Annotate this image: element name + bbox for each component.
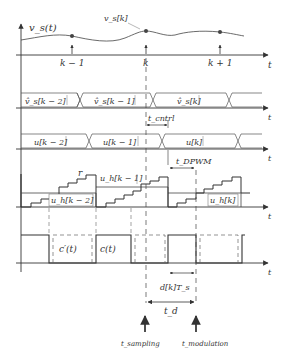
sample-dot-k [144,29,148,33]
uh-k: u_h[k] [210,196,236,205]
row-vs-hat: v̂_s[k − 2] v̂_s[k − 1] v̂_s[k] t t_cntr… [16,93,272,128]
u-k-minus-1: u[k − 1] [103,138,137,147]
c-label: c(t) [100,244,116,254]
vs-hat-k-minus-1: v̂_s[k − 1] [94,97,135,106]
t-modulation-label: t_modulation [182,340,229,348]
tick-k-minus-1: k − 1 [60,58,84,68]
uh-k-minus-2: u_h[k − 2] [51,196,94,205]
row-c: c′(t) c(t) t d[k]T_s t_d [16,235,272,317]
c-solid-wave [21,235,245,263]
t-label-3: t [268,154,272,163]
u-k-minus-2: u[k − 2] [34,138,68,147]
t-dpwm-label: t_DPWM [176,157,212,166]
duty-label: d[k]T_s [160,283,190,292]
t-label-5: t [268,268,272,277]
td-label: t_d [164,306,178,317]
ramp-label: r [78,168,83,178]
t-cntrl-label: t_cntrl [148,114,175,123]
tick-k-plus-1: k + 1 [208,58,232,68]
row-u: u[k − 2] u[k − 1] u[k] t t_DPWM [16,134,272,168]
t-label-2: t [268,113,272,122]
t-sampling-label: t_sampling [121,340,160,348]
vs-t-label: v_s(t) [29,22,57,34]
c-prime-label: c′(t) [59,244,77,254]
sampling-marker: t_sampling [121,316,160,348]
vs-hat-k-minus-2: v̂_s[k − 2] [25,97,66,106]
vs-hat-k: v̂_s[k] [177,97,202,106]
uh-k-minus-1: u_h[k − 1] [100,174,143,183]
sample-dot-k-minus-1 [70,34,74,38]
t-label-4: t [268,212,272,221]
u-k: u[k] [186,138,203,147]
uh-k-minus-2-box: u_h[k − 2] [49,194,94,206]
vs-k-label: v_s[k] [104,14,129,23]
row-uh: r u_h[k − 2] u_h[k − 1] u_h[k] t [16,168,272,221]
sample-dot-k-plus-1 [218,30,222,34]
c-dashed-wave [53,235,238,263]
timing-diagram: v_s(t) v_s[k] k − 1 k k + 1 t v̂_s[k − 2… [0,0,286,356]
t-label-1: t [268,60,272,70]
modulation-marker: t_modulation [182,316,229,348]
row-vs-continuous: v_s(t) v_s[k] k − 1 k k + 1 t [16,14,272,70]
uh-k-box: u_h[k] [208,194,238,206]
